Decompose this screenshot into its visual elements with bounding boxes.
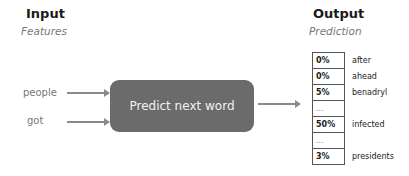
- prob-cell: 0%: [313, 53, 344, 69]
- word-label: presidents: [352, 149, 394, 165]
- input-word-people: people: [23, 87, 57, 98]
- predict-next-word-model-box: Predict next word: [110, 80, 254, 132]
- prob-cell: 50%: [313, 117, 344, 133]
- prob-cell: 3%: [313, 149, 344, 164]
- arrow-right-icon: [67, 92, 105, 94]
- arrow-right-icon: [258, 103, 296, 105]
- word-label: infected: [352, 117, 385, 133]
- prob-cell: 0%: [313, 69, 344, 85]
- prob-cell: 5%: [313, 85, 344, 101]
- model-label: Predict next word: [129, 99, 234, 113]
- word-label: benadryl: [352, 85, 387, 101]
- word-label: ahead: [352, 69, 377, 85]
- word-label: after: [352, 53, 371, 69]
- input-word-got: got: [27, 115, 43, 126]
- ellipsis-cell: ...: [313, 101, 344, 117]
- prediction-table: 0% 0% 5% ... 50% ... 3%: [312, 52, 345, 165]
- input-title: Input: [26, 6, 65, 21]
- input-subtitle: Features: [21, 25, 67, 37]
- output-title: Output: [313, 6, 364, 21]
- arrow-right-icon: [67, 121, 105, 123]
- ellipsis-cell: ...: [313, 133, 344, 149]
- output-subtitle: Prediction: [309, 25, 362, 37]
